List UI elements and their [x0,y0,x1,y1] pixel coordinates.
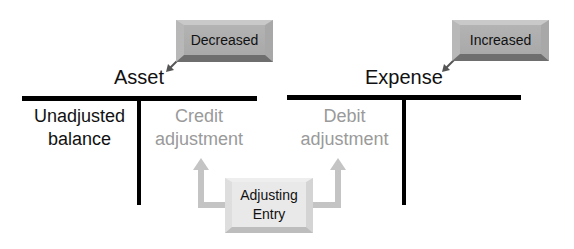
credit-adjustment-label: Credit adjustment [141,105,257,151]
debit-adjustment-label: Debit adjustment [287,105,402,151]
adjusting-entry-line2: Entry [240,205,298,224]
increased-callout: Increased [452,20,549,61]
asset-title: Asset [114,66,164,89]
expense-title: Expense [365,66,443,89]
decreased-callout: Decreased [176,20,273,62]
decreased-label: Decreased [191,32,259,48]
unadjusted-balance-label: Unadjusted balance [22,105,137,151]
arrow-to-debit-adjustment [308,158,346,205]
expense-vertical-line [402,95,406,205]
adjusting-entry-box: Adjusting Entry [225,178,313,233]
adjusting-entry-line1: Adjusting [240,186,298,205]
increased-label: Increased [470,32,531,48]
